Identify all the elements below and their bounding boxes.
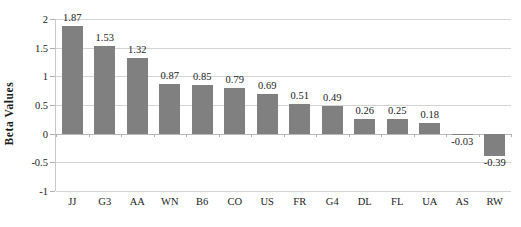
bar xyxy=(354,119,375,134)
bar xyxy=(452,134,473,136)
y-tick-label: 0.5 xyxy=(14,100,48,111)
beta-values-bar-chart: Beta Values 21.510.50-0.5-1 1.871.531.32… xyxy=(0,0,521,227)
y-tick-label: -1 xyxy=(14,186,48,197)
bar xyxy=(387,119,408,133)
y-tick-mark xyxy=(50,48,55,49)
bar-value-label: 0.49 xyxy=(310,92,354,103)
bar xyxy=(62,26,83,133)
x-tick-mark xyxy=(219,134,220,137)
x-tick-mark xyxy=(89,134,90,137)
gridline--1 xyxy=(56,191,511,192)
plot-area: 1.871.531.320.870.850.790.690.510.490.26… xyxy=(56,19,511,191)
bar xyxy=(289,104,310,133)
bar xyxy=(257,94,278,134)
bar xyxy=(224,88,245,133)
bar-value-label: -0.03 xyxy=(440,136,484,147)
bar-value-label: -0.39 xyxy=(473,157,517,168)
y-axis-tick-labels: 21.510.50-0.5-1 xyxy=(8,19,48,191)
gridline-2 xyxy=(56,19,511,20)
x-tick-mark xyxy=(479,134,480,137)
y-tick-label: 2 xyxy=(14,14,48,25)
x-tick-mark xyxy=(284,134,285,137)
bar xyxy=(127,58,148,134)
x-axis-tick-labels: JJG3AAWNB6COUSFRG4DLFLUAASRW xyxy=(56,196,511,216)
gridline-1 xyxy=(56,76,511,77)
y-tick-mark xyxy=(50,134,55,135)
bar xyxy=(94,46,115,134)
y-tick-label: -0.5 xyxy=(14,157,48,168)
x-tick-mark xyxy=(446,134,447,137)
x-tick-mark xyxy=(154,134,155,137)
y-tick-mark xyxy=(50,162,55,163)
x-tick-mark xyxy=(316,134,317,137)
bar-value-label: 0.18 xyxy=(408,109,452,120)
x-tick-label: RW xyxy=(473,196,517,207)
x-tick-mark xyxy=(56,134,57,137)
gridline--0.5 xyxy=(56,162,511,163)
x-tick-mark xyxy=(349,134,350,137)
y-tick-mark xyxy=(50,19,55,20)
gridline-0.5 xyxy=(56,105,511,106)
bar xyxy=(192,85,213,134)
y-tick-mark xyxy=(50,105,55,106)
y-tick-label: 1 xyxy=(14,71,48,82)
bar-value-label: 1.32 xyxy=(115,44,159,55)
y-tick-label: 1.5 xyxy=(14,42,48,53)
x-tick-mark xyxy=(121,134,122,137)
y-tick-mark xyxy=(50,76,55,77)
x-tick-mark xyxy=(251,134,252,137)
y-tick-label: 0 xyxy=(14,128,48,139)
bar xyxy=(484,134,505,156)
bar-value-label: 1.87 xyxy=(50,12,94,23)
x-tick-mark xyxy=(511,134,512,137)
x-tick-mark xyxy=(186,134,187,137)
bar-value-label: 1.53 xyxy=(83,32,127,43)
x-tick-mark xyxy=(414,134,415,137)
x-tick-mark xyxy=(381,134,382,137)
bar xyxy=(419,123,440,133)
y-tick-mark xyxy=(50,191,55,192)
bar xyxy=(159,84,180,134)
bar xyxy=(322,106,343,134)
